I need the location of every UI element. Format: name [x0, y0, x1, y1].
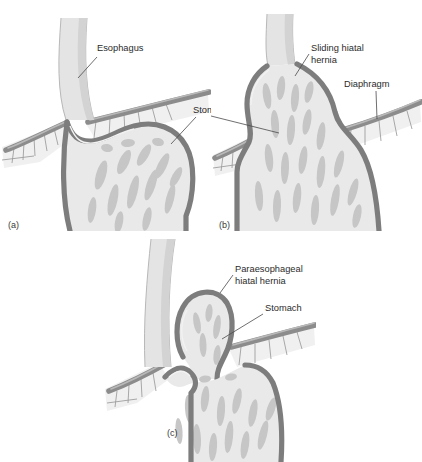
diaphragm-leader-line [376, 91, 377, 119]
label-esophagus: Esophagus [97, 43, 144, 53]
panel-c-paraesophageal-hiatal-hernia: Paraesophageal hiatal hernia Stomach (c) [105, 231, 316, 462]
label-diaphragm: Diaphragm [344, 79, 390, 89]
paraesophageal-leader-line [220, 275, 233, 293]
panel-label-c: (c) [167, 428, 178, 438]
label-sliding-hernia-line2: hernia [311, 55, 338, 65]
diaphragm-right-sheet [229, 327, 315, 367]
label-stomach: Stomach [265, 303, 302, 313]
label-paraesophageal-line2: hiatal hernia [235, 276, 286, 286]
panel-b-sliding-hiatal-hernia: Sliding hiatal hernia Diaphragm Stomach … [211, 0, 422, 231]
label-stomach: Stomach [193, 105, 211, 115]
label-sliding-hernia-line1: Sliding hiatal [311, 43, 364, 53]
panel-a-normal-anatomy: Esophagus Stomach (a) [0, 0, 211, 231]
hiatal-hernia-figure: Esophagus Stomach (a) [0, 0, 422, 462]
panel-label-a: (a) [8, 220, 19, 230]
panel-label-b: (b) [219, 220, 230, 230]
label-paraesophageal-line1: Paraesophageal [235, 264, 303, 274]
